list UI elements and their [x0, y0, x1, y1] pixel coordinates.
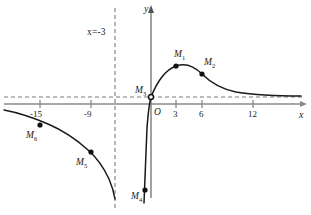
point-label-m1-letter: M — [174, 49, 182, 59]
curve-left-branch — [4, 110, 115, 199]
point-label-m3: M3 — [135, 86, 146, 97]
point-label-m2: M2 — [204, 58, 215, 69]
graph-figure: y x O x=-3 -15 -9 3 6 12 M1 M2 M3 M4 M5 … — [0, 0, 311, 215]
point-m1 — [173, 63, 178, 68]
point-label-m3-sub: 3 — [143, 90, 146, 97]
x-tick-label-minus15: -15 — [30, 110, 42, 119]
x-axis-arrow — [300, 101, 307, 107]
origin-label: O — [154, 108, 161, 118]
point-label-m1: M1 — [174, 50, 185, 61]
point-label-m3-letter: M — [135, 85, 143, 95]
x-tick-label-3: 3 — [173, 110, 178, 119]
y-axis-label: y — [144, 4, 148, 14]
point-label-m6-sub: 6 — [34, 135, 37, 142]
point-label-m2-sub: 2 — [212, 62, 215, 69]
point-label-m1-sub: 1 — [182, 54, 185, 61]
x-tick-label-6: 6 — [199, 110, 204, 119]
point-m3 — [149, 95, 154, 100]
point-m5 — [88, 149, 93, 154]
curve-middle-branch — [144, 97, 151, 203]
point-label-m4-letter: M — [131, 191, 139, 201]
curve-right-branch — [151, 65, 301, 97]
point-label-m4: M4 — [131, 192, 142, 203]
point-label-m6: M6 — [26, 131, 37, 142]
point-label-m6-letter: M — [26, 130, 34, 140]
point-m2 — [199, 71, 204, 76]
point-m4 — [142, 187, 147, 192]
x-axis-label: x — [299, 110, 303, 120]
point-label-m5-letter: M — [76, 157, 84, 167]
vertical-asymptote-label: x=-3 — [87, 28, 106, 38]
point-m6 — [37, 122, 42, 127]
x-tick-label-minus9: -9 — [84, 110, 92, 119]
point-label-m5: M5 — [76, 158, 87, 169]
x-tick-label-12: 12 — [248, 110, 257, 119]
point-label-m5-sub: 5 — [84, 162, 87, 169]
point-label-m2-letter: M — [204, 57, 212, 67]
y-axis-arrow — [148, 5, 154, 13]
point-label-m4-sub: 4 — [139, 196, 142, 203]
